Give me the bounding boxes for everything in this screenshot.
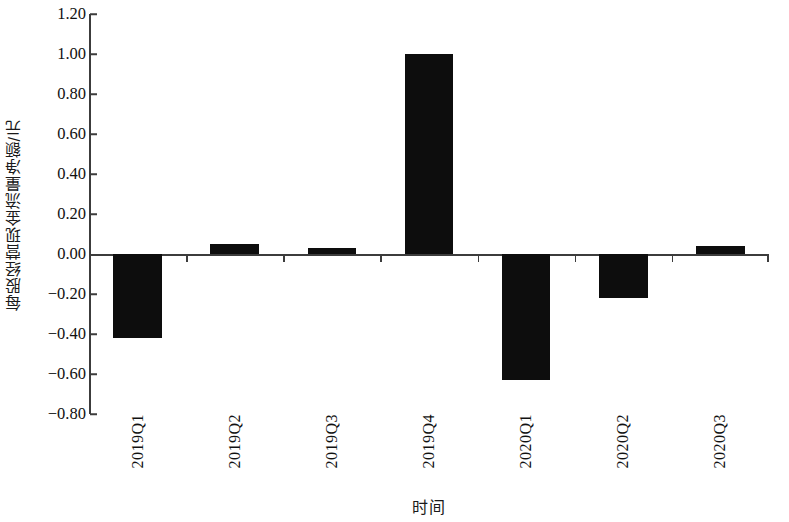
bar (696, 246, 745, 254)
x-axis-tick-label-text: 2020Q3 (712, 414, 728, 469)
x-axis-title-text: 时间 (412, 499, 446, 516)
y-axis-tick-labels: 1.201.000.800.600.400.200.00−0.20−0.40−0… (28, 0, 86, 440)
y-axis-title: 每股经营现金流量净额/元 (0, 0, 30, 430)
x-axis-tick-labels: 2019Q12019Q22019Q32019Q42020Q12020Q22020… (89, 414, 769, 494)
y-axis-tick-label: −0.60 (28, 366, 86, 383)
x-axis-tick-label: 2019Q3 (312, 414, 352, 494)
y-axis-tick-label: 0.40 (28, 166, 86, 183)
y-axis-tick-label: −0.20 (28, 286, 86, 303)
bar (308, 248, 357, 254)
bar (599, 254, 648, 298)
bar-chart: 每股经营现金流量净额/元 1.201.000.800.600.400.200.0… (0, 0, 789, 522)
x-axis-tick-label: 2020Q3 (700, 414, 740, 494)
y-axis-tick-label: 0.20 (28, 206, 86, 223)
plot-area (89, 14, 769, 414)
x-axis-tick-label: 2019Q1 (118, 414, 158, 494)
x-axis-tick-label: 2020Q2 (603, 414, 643, 494)
bar (210, 244, 259, 254)
bar (113, 254, 162, 338)
x-axis-tick-label-text: 2019Q4 (421, 414, 437, 469)
x-axis-tick-label-text: 2019Q3 (324, 414, 340, 469)
x-axis-tick-label: 2019Q4 (409, 414, 449, 494)
x-axis-tick-label: 2020Q1 (506, 414, 546, 494)
x-axis-tick-label-text: 2020Q2 (615, 414, 631, 469)
x-axis-tick-label: 2019Q2 (215, 414, 255, 494)
y-axis-tick-label: −0.40 (28, 326, 86, 343)
y-axis-tick-label: 1.20 (28, 6, 86, 23)
x-axis-tick-label-text: 2019Q2 (227, 414, 243, 469)
y-axis-title-text: 每股经营现金流量净额/元 (3, 119, 27, 311)
bar (502, 254, 551, 380)
y-axis-tick-label: −0.80 (28, 406, 86, 423)
bars-layer (89, 14, 769, 414)
x-axis-title: 时间 (89, 494, 769, 518)
x-axis-tick-label-text: 2019Q1 (130, 414, 146, 469)
y-axis-tick-label: 0.00 (28, 246, 86, 263)
y-axis-tick-label: 1.00 (28, 46, 86, 63)
y-axis-tick-label: 0.80 (28, 86, 86, 103)
y-axis-tick-label: 0.60 (28, 126, 86, 143)
x-axis-tick-label-text: 2020Q1 (518, 414, 534, 469)
bar (405, 54, 454, 254)
